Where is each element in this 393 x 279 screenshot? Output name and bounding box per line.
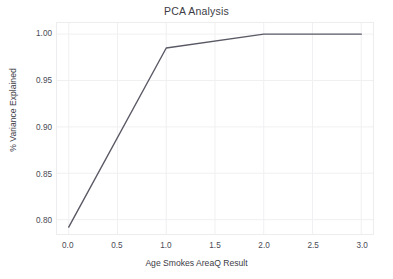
plot-area bbox=[56, 22, 374, 235]
y-tick-label-1: 0.85 bbox=[6, 169, 52, 178]
chart-title: PCA Analysis bbox=[0, 5, 393, 17]
y-axis-label: % Variance Explained bbox=[8, 50, 18, 170]
x-axis-label: Age Smokes AreaQ Result bbox=[0, 258, 393, 268]
y-tick-label-0: 0.80 bbox=[6, 216, 52, 225]
x-tick-label-6: 3.0 bbox=[342, 241, 382, 250]
variance-line-series bbox=[57, 23, 373, 234]
x-axis-tick-labels: 0.00.51.01.52.02.53.0 bbox=[56, 241, 374, 255]
x-tick-label-0: 0.0 bbox=[48, 241, 88, 250]
x-tick-label-4: 2.0 bbox=[244, 241, 284, 250]
pca-analysis-chart-figure: PCA Analysis 0.800.850.900.951.00 0.00.5… bbox=[0, 0, 393, 279]
x-tick-label-1: 0.5 bbox=[97, 241, 137, 250]
data-line bbox=[69, 34, 362, 227]
y-tick-label-4: 1.00 bbox=[6, 29, 52, 38]
x-tick-label-5: 2.5 bbox=[293, 241, 333, 250]
x-tick-label-3: 1.5 bbox=[195, 241, 235, 250]
x-tick-label-2: 1.0 bbox=[146, 241, 186, 250]
